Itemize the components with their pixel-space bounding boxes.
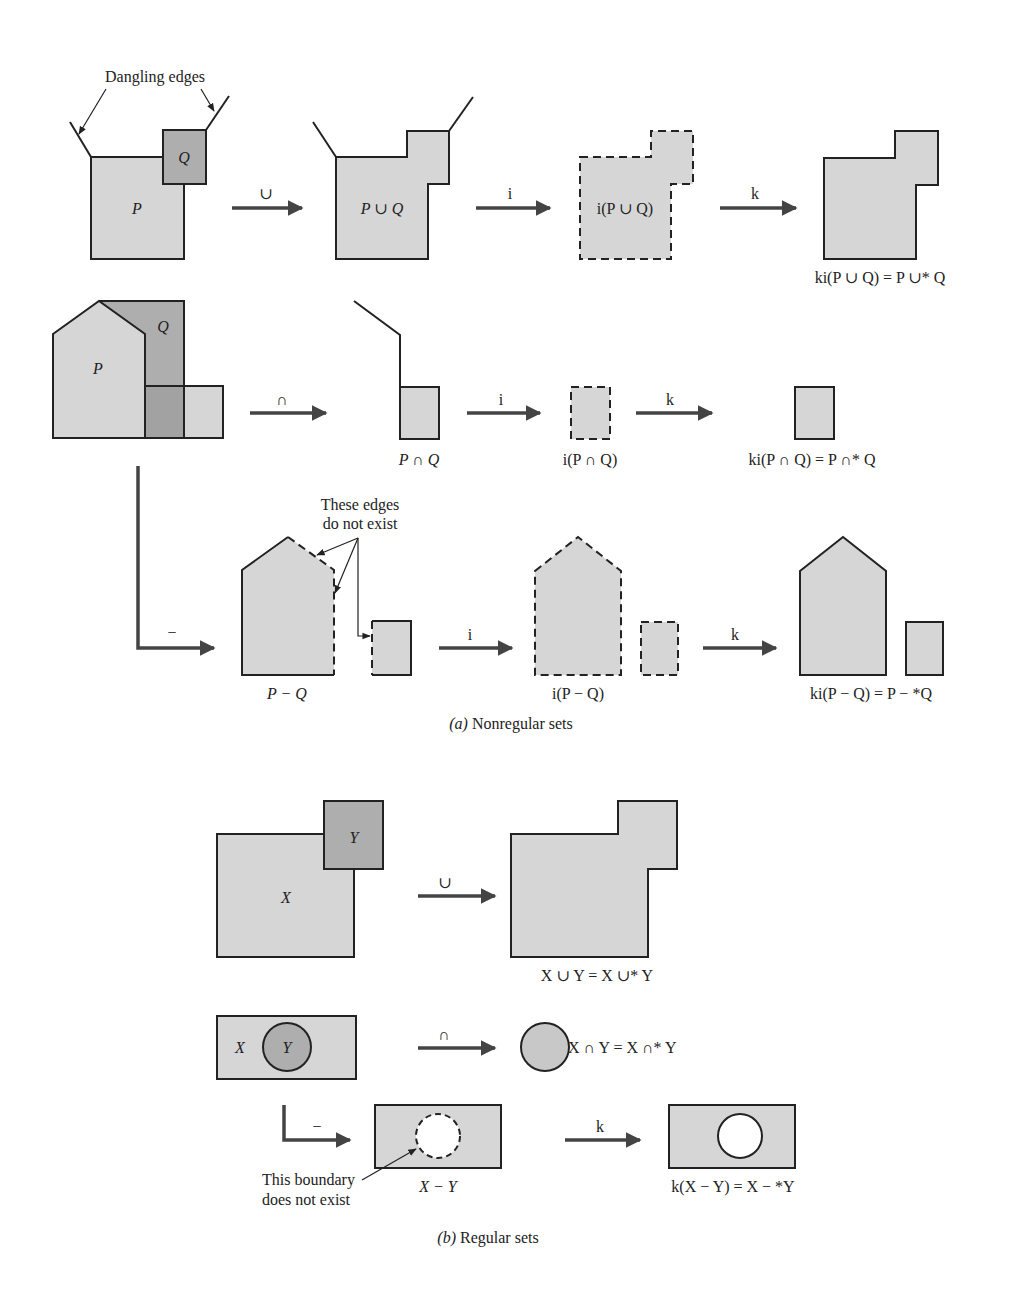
caption-part-a: (a) Nonregular sets xyxy=(449,715,573,733)
label-regularized-difference: ki(P − Q) = P − *Q xyxy=(810,685,932,703)
caption-part-b: (b) Regular sets xyxy=(437,1229,538,1247)
op-closure: k xyxy=(596,1118,604,1135)
annotation-arrow-icon xyxy=(79,89,106,134)
boundary-annotation-line1: This boundary xyxy=(262,1171,355,1189)
input-p-q-intersection: P Q xyxy=(53,301,223,438)
op-intersection: ∩ xyxy=(276,391,288,408)
op-intersection: ∩ xyxy=(438,1026,450,1043)
boolean-set-operations-figure: P Q Dangling edges ∪ P ∪ Q i i(P ∪ Q) k xyxy=(0,0,1029,1296)
op-closure: k xyxy=(666,391,674,408)
label-p-intersect-q: P ∩ Q xyxy=(398,451,440,468)
label-p-union-q: P ∪ Q xyxy=(360,200,404,217)
label-x-union-y: X ∪ Y = X ∪* Y xyxy=(541,967,654,984)
label-q: Q xyxy=(178,149,190,166)
label-regularized-x-minus-y: k(X − Y) = X − *Y xyxy=(671,1178,795,1196)
part-a-difference-row: − These edges do not exist P − Q i i(P −… xyxy=(138,466,943,703)
input-p-q-union: P Q xyxy=(70,96,229,259)
label-interior-difference: i(P − Q) xyxy=(552,685,604,703)
label-q: Q xyxy=(157,318,169,335)
op-union: ∪ xyxy=(438,874,451,891)
part-b-difference-row: − X − Y This boundary does not exist k k… xyxy=(262,1105,795,1208)
result-regularized-x-minus-y: k(X − Y) = X − *Y xyxy=(669,1105,795,1196)
input-x-y-union: X Y xyxy=(217,801,383,957)
label-x-intersect-y: X ∩ Y = X ∩* Y xyxy=(568,1039,677,1056)
dangling-edge-right xyxy=(206,96,229,130)
label-p: P xyxy=(131,200,142,217)
label-regularized-intersection: ki(P ∩ Q) = P ∩* Q xyxy=(749,451,876,469)
part-b-intersection-row: X Y ∩ X ∩ Y = X ∩* Y xyxy=(217,1016,677,1079)
label-x-minus-y: X − Y xyxy=(418,1178,459,1195)
label-p: P xyxy=(92,360,103,377)
boundary-annotation-line2: does not exist xyxy=(262,1191,351,1208)
caption-part-b-prefix: (b) xyxy=(437,1229,456,1247)
op-closure: k xyxy=(751,185,759,202)
result-regularized-intersection: ki(P ∩ Q) = P ∩* Q xyxy=(749,387,876,469)
op-closure: k xyxy=(731,626,739,643)
label-regularized-union: ki(P ∪ Q) = P ∪* Q xyxy=(815,269,946,287)
result-p-minus-q: P − Q xyxy=(242,537,411,702)
result-interior-intersection: i(P ∩ Q) xyxy=(563,387,618,469)
label-x: X xyxy=(234,1039,246,1056)
result-p-union-q: P ∪ Q xyxy=(313,97,473,259)
op-interior: i xyxy=(508,185,513,202)
result-x-intersect-y: X ∩ Y = X ∩* Y xyxy=(521,1023,677,1071)
label-p-minus-q: P − Q xyxy=(266,685,307,702)
result-regularized-difference: ki(P − Q) = P − *Q xyxy=(800,537,943,703)
result-regularized-union: ki(P ∪ Q) = P ∪* Q xyxy=(815,131,946,287)
label-interior-intersection: i(P ∩ Q) xyxy=(563,451,618,469)
result-p-intersect-q: P ∩ Q xyxy=(354,301,440,468)
dangling-edge-left xyxy=(70,122,91,157)
part-a-intersection-row: P Q ∩ P ∩ Q i i(P ∩ Q) k ki(P ∩ Q) = P ∩… xyxy=(53,301,876,469)
part-b-union-row: X Y ∪ X ∪ Y = X ∪* Y xyxy=(217,801,677,984)
annotation-arrow-icon xyxy=(201,89,214,111)
these-edges-annotation-line1: These edges xyxy=(321,496,400,514)
result-interior-union: i(P ∪ Q) xyxy=(580,131,693,259)
these-edges-annotation-line2: do not exist xyxy=(323,515,398,532)
difference-arrow-icon xyxy=(138,466,214,648)
dangling-edges-annotation: Dangling edges xyxy=(105,68,205,86)
result-x-union-y: X ∪ Y = X ∪* Y xyxy=(511,801,677,984)
part-a-union-row: P Q Dangling edges ∪ P ∪ Q i i(P ∪ Q) k xyxy=(70,68,946,287)
result-x-minus-y: X − Y xyxy=(375,1105,501,1195)
caption-part-a-text: Nonregular sets xyxy=(468,715,573,733)
op-interior: i xyxy=(499,391,504,408)
label-interior-union: i(P ∪ Q) xyxy=(597,200,653,218)
op-interior: i xyxy=(468,626,473,643)
result-interior-difference: i(P − Q) xyxy=(535,537,678,703)
op-difference: − xyxy=(312,1118,321,1135)
caption-part-a-prefix: (a) xyxy=(449,715,468,733)
annotation-arrow-icon xyxy=(358,538,370,636)
op-union: ∪ xyxy=(259,185,272,202)
input-x-y-intersection: X Y xyxy=(217,1016,356,1079)
op-difference: − xyxy=(167,624,176,641)
label-x: X xyxy=(280,889,292,906)
caption-part-b-text: Regular sets xyxy=(456,1229,539,1247)
